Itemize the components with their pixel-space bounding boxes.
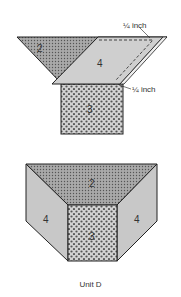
bottom-assembly: 2 4 3 4 [26, 164, 157, 261]
quilt-diagram: 2 4 3 ¼ inch ¼ inch 2 4 3 4 [0, 0, 181, 297]
piece-2-label: 2 [89, 178, 95, 189]
unit-caption: Unit D [0, 280, 181, 289]
annotation-right: ¼ inch [132, 85, 156, 94]
piece-4-left-label: 4 [43, 214, 49, 225]
top-assembly: 2 4 3 ¼ inch ¼ inch [17, 21, 167, 134]
piece-4-right-label: 4 [134, 214, 140, 225]
annotation-top: ¼ inch [123, 21, 147, 30]
piece-3-label: 3 [89, 231, 95, 242]
piece-2-label: 2 [37, 43, 43, 54]
piece-3-label: 3 [87, 104, 93, 115]
piece-4-label: 4 [97, 58, 103, 69]
